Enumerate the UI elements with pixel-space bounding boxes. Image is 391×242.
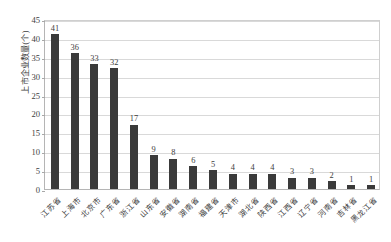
bar-group: 4 — [262, 21, 282, 189]
x-axis-label-slot: 福建省 — [202, 191, 222, 242]
bar[interactable] — [249, 174, 257, 189]
x-axis-label-slot: 广东省 — [103, 191, 123, 242]
x-axis-label-slot: 辽宁省 — [301, 191, 321, 242]
bars-layer: 4136333217986544433211 — [45, 21, 379, 189]
y-axis-tick-label: 35 — [22, 53, 40, 62]
bar-value-label: 41 — [51, 25, 59, 33]
y-axis-tick-label: 10 — [22, 148, 40, 157]
x-axis-label-slot: 陕西省 — [261, 191, 281, 242]
bar-group: 8 — [164, 21, 184, 189]
bar-value-label: 9 — [152, 146, 156, 154]
bar[interactable] — [110, 68, 118, 189]
bar-value-label: 6 — [191, 157, 195, 165]
bar-group: 5 — [203, 21, 223, 189]
bar-value-label: 33 — [90, 55, 98, 63]
bar-chart: 上市企业数量(个) 454035302520151050 41363332179… — [0, 0, 391, 242]
bar-value-label: 1 — [369, 176, 373, 184]
bar-group: 3 — [302, 21, 322, 189]
bar-group: 36 — [65, 21, 85, 189]
bar[interactable] — [347, 185, 355, 189]
bar[interactable] — [189, 166, 197, 189]
bar-group: 6 — [183, 21, 203, 189]
x-axis-label-slot: 江西省 — [281, 191, 301, 242]
bar-value-label: 8 — [171, 149, 175, 157]
bar-value-label: 17 — [130, 115, 138, 123]
x-axis-label-slot: 河南省 — [321, 191, 341, 242]
x-axis-label-slot: 江苏省 — [44, 191, 64, 242]
y-axis-tick-label: 40 — [22, 35, 40, 44]
x-axis-label-slot: 上海市 — [64, 191, 84, 242]
bar[interactable] — [130, 125, 138, 189]
y-axis-tick-label: 15 — [22, 129, 40, 138]
x-axis-label-slot: 湖北省 — [242, 191, 262, 242]
bar-value-label: 2 — [329, 172, 333, 180]
x-axis-label-slot: 天津市 — [222, 191, 242, 242]
x-axis-label-slot: 安徽省 — [163, 191, 183, 242]
bar[interactable] — [308, 178, 316, 189]
bar-group: 9 — [144, 21, 164, 189]
x-axis-category-label: 江苏省 — [38, 194, 63, 219]
bar-group: 4 — [243, 21, 263, 189]
bar[interactable] — [71, 53, 79, 189]
x-axis-label-slot: 北京市 — [84, 191, 104, 242]
bar-group: 4 — [223, 21, 243, 189]
bar[interactable] — [90, 64, 98, 189]
x-axis-label-slot: 山东省 — [143, 191, 163, 242]
bar[interactable] — [169, 159, 177, 189]
x-axis-category-labels: 江苏省上海市北京市广东省浙江省山东省安徽省湖南省福建省天津市湖北省陕西省江西省辽… — [44, 191, 380, 242]
y-axis-tick-labels: 454035302520151050 — [22, 14, 40, 192]
bar[interactable] — [229, 174, 237, 189]
bar[interactable] — [288, 178, 296, 189]
y-axis-tick-label: 25 — [22, 91, 40, 100]
y-axis-tick-label: 0 — [22, 186, 40, 195]
bar-group: 3 — [282, 21, 302, 189]
bar-group: 17 — [124, 21, 144, 189]
bar-group: 41 — [45, 21, 65, 189]
bar-value-label: 3 — [310, 168, 314, 176]
bar-value-label: 4 — [231, 164, 235, 172]
bar-value-label: 36 — [70, 44, 78, 52]
bar[interactable] — [367, 185, 375, 189]
y-axis-tick-label: 30 — [22, 72, 40, 81]
y-axis-tick-label: 5 — [22, 167, 40, 176]
plot-area: 4136333217986544433211 — [44, 20, 380, 190]
x-axis-label-slot: 湖南省 — [182, 191, 202, 242]
bar-group: 1 — [341, 21, 361, 189]
bar-group: 2 — [322, 21, 342, 189]
y-axis-tick-label: 45 — [22, 16, 40, 25]
bar-value-label: 4 — [270, 164, 274, 172]
bar-value-label: 3 — [290, 168, 294, 176]
bar-value-label: 4 — [250, 164, 254, 172]
bar[interactable] — [209, 170, 217, 189]
bar[interactable] — [150, 155, 158, 189]
bar-group: 1 — [361, 21, 381, 189]
bar[interactable] — [51, 34, 59, 189]
x-axis-label-slot: 黑龙江省 — [360, 191, 380, 242]
bar-value-label: 5 — [211, 161, 215, 169]
x-axis-label-slot: 浙江省 — [123, 191, 143, 242]
bar-value-label: 32 — [110, 59, 118, 67]
bar-group: 33 — [85, 21, 105, 189]
bar-value-label: 1 — [349, 176, 353, 184]
bar[interactable] — [328, 181, 336, 189]
y-axis-tick-label: 20 — [22, 110, 40, 119]
bar-group: 32 — [104, 21, 124, 189]
bar[interactable] — [268, 174, 276, 189]
